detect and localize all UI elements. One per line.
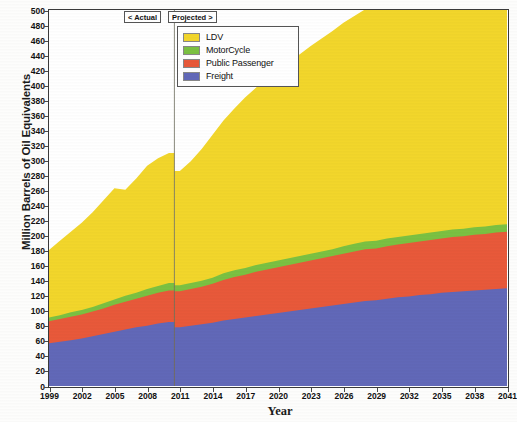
legend-item[interactable]: LDV: [183, 31, 293, 43]
chart-legend: LDVMotorCyclePublic PassengerFreight: [177, 26, 299, 87]
x-tick-mark: [180, 388, 181, 392]
x-tick-mark: [409, 388, 410, 392]
y-tick-label: 80: [1, 321, 45, 331]
projected-phase-label: Projected >: [168, 11, 217, 23]
y-tick-label: 40: [1, 351, 45, 361]
x-tick-label: 2038: [465, 391, 484, 401]
legend-swatch-icon: [183, 72, 200, 81]
y-tick-label: 120: [1, 291, 45, 301]
x-tick-mark: [475, 388, 476, 392]
x-tick-mark: [279, 388, 280, 392]
actual-phase-label: < Actual: [124, 11, 161, 23]
x-tick-label: 2008: [138, 391, 157, 401]
x-tick-label: 2026: [334, 391, 353, 401]
y-tick-label: 500: [1, 6, 45, 16]
x-tick-mark: [50, 388, 51, 392]
stacked-area-chart: Million Barrels of Oil Equivalents 02040…: [0, 0, 517, 422]
x-tick-label: 2041: [498, 391, 517, 401]
x-tick-label: 2035: [433, 391, 452, 401]
y-tick-label: 100: [1, 306, 45, 316]
x-tick-mark: [377, 388, 378, 392]
legend-swatch-icon: [183, 59, 200, 68]
legend-item-label: LDV: [206, 32, 223, 42]
legend-swatch-icon: [183, 33, 200, 42]
x-tick-mark: [148, 388, 149, 392]
y-tick-label: 0: [1, 382, 45, 392]
legend-item-label: MotorCycle: [206, 45, 250, 55]
x-tick-label: 2032: [400, 391, 419, 401]
x-tick-label: 2011: [171, 391, 189, 401]
legend-swatch-icon: [183, 46, 200, 55]
x-tick-label: 2005: [105, 391, 124, 401]
legend-item[interactable]: Freight: [183, 70, 293, 82]
x-tick-label: 2014: [204, 391, 223, 401]
x-tick-mark: [442, 388, 443, 392]
y-tick-label: 60: [1, 336, 45, 346]
legend-item[interactable]: Public Passenger: [183, 57, 293, 69]
x-tick-mark: [508, 388, 509, 392]
x-tick-mark: [311, 388, 312, 392]
x-tick-mark: [115, 388, 116, 392]
x-tick-label: 2020: [269, 391, 288, 401]
x-tick-label: 2002: [73, 391, 92, 401]
y-tick-label: 480: [1, 21, 45, 31]
x-tick-label: 1999: [40, 391, 59, 401]
x-tick-label: 2029: [367, 391, 386, 401]
x-tick-mark: [344, 388, 345, 392]
legend-item-label: Freight: [206, 71, 233, 81]
x-tick-mark: [246, 388, 247, 392]
x-tick-label: 2017: [236, 391, 255, 401]
x-tick-mark: [82, 388, 83, 392]
x-axis-title: Year: [48, 404, 512, 419]
legend-item-label: Public Passenger: [206, 58, 274, 68]
x-tick-mark: [213, 388, 214, 392]
y-axis-title: Million Barrels of Oil Equivalents: [20, 32, 32, 292]
x-tick-label: 2023: [302, 391, 321, 401]
legend-item[interactable]: MotorCycle: [183, 44, 293, 56]
y-tick-label: 20: [1, 366, 45, 376]
